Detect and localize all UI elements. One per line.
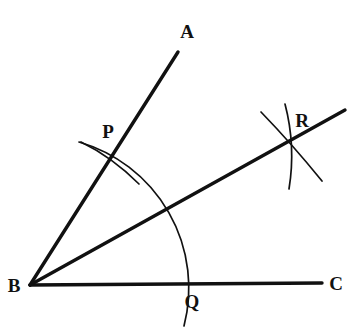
ray-ba — [30, 52, 178, 285]
geometry-canvas — [0, 0, 358, 332]
arc-pq — [79, 142, 189, 326]
arcs-group — [79, 104, 322, 326]
point-label-c: C — [329, 274, 343, 293]
ray-bc — [30, 283, 322, 285]
point-label-a: A — [180, 22, 194, 41]
point-label-q: Q — [185, 292, 200, 311]
rays-group — [30, 52, 345, 285]
point-label-p: P — [102, 122, 114, 141]
arc-at-p — [81, 142, 139, 184]
geometry-figure: B A C P Q R — [0, 0, 358, 332]
arc-at-r-from-p — [285, 104, 292, 189]
ray-bisector — [30, 110, 345, 285]
point-label-r: R — [295, 111, 309, 130]
point-label-b: B — [8, 276, 21, 295]
